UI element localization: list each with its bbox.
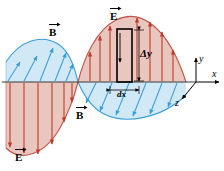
dx-label: dx	[117, 90, 126, 99]
b-field-right-lobe	[78, 82, 186, 119]
e-upper-text: E	[110, 10, 117, 22]
vector-arrow-icon	[110, 6, 122, 11]
delta-y-label: Δy	[140, 48, 152, 59]
e-field-left-lobe	[6, 82, 78, 155]
e-field-upper-label: E	[110, 11, 117, 22]
em-wave-svg	[0, 0, 224, 171]
vector-arrow-icon	[15, 147, 27, 152]
vector-arrow-icon	[49, 22, 61, 27]
e-lower-text: E	[15, 151, 22, 163]
b-field-lower-label: B	[76, 110, 83, 121]
em-wave-figure: B B E E Δy	[0, 0, 224, 171]
vector-arrow-icon	[76, 105, 88, 110]
e-field-lower-label: E	[15, 152, 22, 163]
b-lower-text: B	[76, 109, 83, 121]
b-field-left-lobe	[6, 39, 78, 82]
axis-label-y: y	[199, 53, 203, 64]
b-upper-text: B	[49, 26, 56, 38]
axis-label-z: z	[175, 97, 179, 108]
axis-label-x: x	[212, 68, 216, 79]
b-field-upper-label: B	[49, 27, 56, 38]
